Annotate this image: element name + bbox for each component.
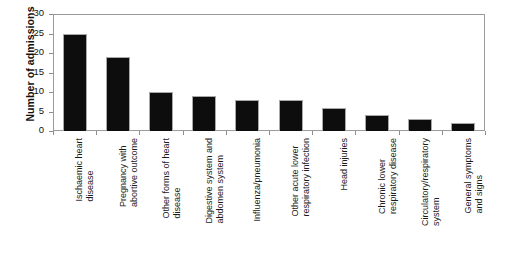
bar <box>451 123 475 131</box>
x-axis-label-slot: Other acute lowerrespiratory infection <box>269 136 312 268</box>
x-axis-tick-label-line: disease <box>171 138 182 219</box>
x-axis-tick-label-line: abortive outcome <box>128 138 139 207</box>
bars-layer <box>53 14 485 131</box>
x-axis-label-slot: Head injuries <box>312 136 355 268</box>
bar <box>63 34 87 132</box>
x-axis-tick-label-line: Circulatory/respiratory <box>420 138 431 226</box>
x-axis-tick-label-line: Head injuries <box>339 138 350 191</box>
x-axis-tick-label: Influenza/pneumonia <box>252 138 263 222</box>
bar-slot <box>226 14 269 131</box>
bar-slot <box>269 14 312 131</box>
x-axis-tick-mark <box>96 131 97 135</box>
x-axis-tick-label-line: Other forms of heart <box>161 138 172 219</box>
bar-slot <box>139 14 182 131</box>
bar-slot <box>312 14 355 131</box>
x-axis-tick-mark <box>139 131 140 135</box>
x-axis-tick-label: Head injuries <box>339 138 350 191</box>
bar <box>365 115 389 131</box>
x-axis-tick-label: Circulatory/respiratorysystem <box>420 138 441 226</box>
bar <box>322 108 346 131</box>
bar <box>408 119 432 131</box>
x-axis-tick-label-line: Chronic lower <box>377 138 388 214</box>
x-axis-label-slot: Circulatory/respiratorysystem <box>399 136 442 268</box>
x-axis-tick-label-line: disease <box>85 138 96 202</box>
x-axis-tick-label: General symptomsand signs <box>463 138 484 214</box>
y-axis-tick-label: 10 <box>33 85 44 96</box>
x-axis-tick-mark <box>485 131 486 135</box>
bar-slot <box>53 14 96 131</box>
bar <box>235 100 259 131</box>
bar-chart: Number of admissions 051015202530 Ischae… <box>0 0 506 270</box>
y-axis-tick-label: 0 <box>39 124 44 135</box>
x-axis-tick-label-line: Pregnancy with <box>118 138 129 207</box>
x-axis-labels: Ischaemic heartdiseasePregnancy withabor… <box>53 136 485 268</box>
x-axis-tick-mark <box>183 131 184 135</box>
x-axis-label-slot: Pregnancy withabortive outcome <box>96 136 139 268</box>
x-axis-tick-label-line: respiratory disease <box>387 138 398 214</box>
x-axis-tick-label-line: system <box>430 138 441 226</box>
x-axis-tick-label: Digestive system andabdomen system <box>204 138 225 224</box>
bar <box>279 100 303 131</box>
x-axis-tick-label-line: General symptoms <box>463 138 474 214</box>
x-axis-tick-label-line: and signs <box>474 138 485 214</box>
x-axis-tick-mark <box>312 131 313 135</box>
bar-slot <box>442 14 485 131</box>
x-axis-tick-label-line: Influenza/pneumonia <box>252 138 263 222</box>
x-axis-tick-mark <box>355 131 356 135</box>
bar-slot <box>183 14 226 131</box>
x-axis-tick-label: Ischaemic heartdisease <box>74 138 95 202</box>
x-axis-label-slot: Influenza/pneumonia <box>226 136 269 268</box>
y-axis-tick-label: 25 <box>33 27 44 38</box>
x-axis-tick-label: Other forms of heartdisease <box>161 138 182 219</box>
x-axis-tick-label: Chronic lowerrespiratory disease <box>377 138 398 214</box>
x-axis-tick-mark <box>399 131 400 135</box>
y-axis-tick-label: 5 <box>39 105 44 116</box>
x-axis-tick-mark <box>226 131 227 135</box>
x-axis-label-slot: Ischaemic heartdisease <box>53 136 96 268</box>
x-axis-tick-label: Pregnancy withabortive outcome <box>118 138 139 207</box>
x-axis-label-slot: General symptomsand signs <box>442 136 485 268</box>
x-axis-tick-label: Other acute lowerrespiratory infection <box>290 138 311 217</box>
x-axis-tick-label-line: Ischaemic heart <box>74 138 85 202</box>
bar-slot <box>355 14 398 131</box>
x-axis-tick-label-line: Other acute lower <box>290 138 301 217</box>
bar <box>106 57 130 131</box>
x-axis-tick-label-line: respiratory infection <box>301 138 312 217</box>
x-axis-tick-label-line: abdomen system <box>214 138 225 224</box>
y-axis-tick-label: 30 <box>33 7 44 18</box>
x-axis-tick-mark <box>442 131 443 135</box>
x-axis-label-slot: Digestive system andabdomen system <box>183 136 226 268</box>
x-axis-label-slot: Chronic lowerrespiratory disease <box>355 136 398 268</box>
x-axis-label-slot: Other forms of heartdisease <box>139 136 182 268</box>
x-axis-tick-label-line: Digestive system and <box>204 138 215 224</box>
bar-slot <box>96 14 139 131</box>
bar-slot <box>399 14 442 131</box>
y-axis-tick-label: 15 <box>33 66 44 77</box>
x-axis-tick-mark <box>53 131 54 135</box>
bar <box>149 92 173 131</box>
y-axis-tick-label: 20 <box>33 46 44 57</box>
x-axis-tick-mark <box>269 131 270 135</box>
bar <box>192 96 216 131</box>
